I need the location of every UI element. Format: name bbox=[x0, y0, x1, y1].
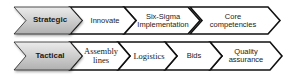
logistics-text: Logistics bbox=[133, 52, 164, 61]
assurance-text: assurance bbox=[229, 56, 264, 64]
label-logistics: Logistics bbox=[128, 42, 170, 70]
label-quality-assurance: Quality assurance bbox=[220, 42, 272, 70]
implementation-text: Implementation bbox=[137, 21, 188, 29]
lines-text: lines bbox=[93, 56, 109, 65]
label-tactical: Tactical bbox=[26, 42, 74, 70]
label-strategic: Strategic bbox=[26, 7, 74, 34]
label-six-sigma: Six-Sigma Implementation bbox=[134, 7, 192, 34]
label-innovate: Innovate bbox=[82, 7, 128, 34]
label-bids: Bids bbox=[175, 42, 213, 70]
innovate-text: Innovate bbox=[91, 17, 120, 25]
label-core-competencies: Core competencies bbox=[200, 7, 266, 34]
bids-text: Bids bbox=[187, 52, 202, 60]
strategic-text: Strategic bbox=[33, 16, 67, 24]
label-assembly-lines: Assembly lines bbox=[80, 42, 122, 70]
tactical-text: Tactical bbox=[35, 52, 64, 60]
competencies-text: competencies bbox=[210, 21, 256, 29]
